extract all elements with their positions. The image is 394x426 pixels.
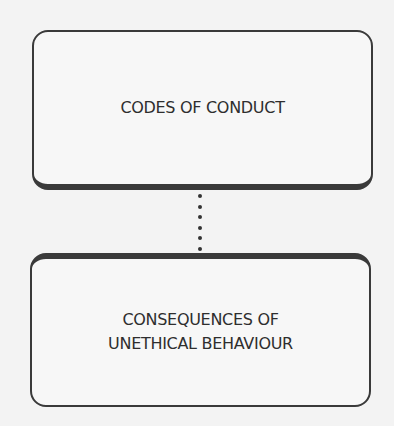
connector-dot (198, 247, 202, 251)
connector-dot (198, 215, 202, 219)
consequences-box: CONSEQUENCES OF UNETHICAL BEHAVIOUR (30, 253, 371, 407)
dotted-connector (198, 194, 202, 251)
connector-dot (198, 226, 202, 230)
consequences-label-line-1: CONSEQUENCES OF (108, 308, 293, 332)
connector-dot (198, 205, 202, 209)
codes-of-conduct-label: CODES OF CONDUCT (120, 96, 284, 120)
consequences-label-line-2: UNETHICAL BEHAVIOUR (108, 332, 293, 356)
connector-dot (198, 194, 202, 198)
consequences-label: CONSEQUENCES OF UNETHICAL BEHAVIOUR (108, 308, 293, 356)
connector-dot (198, 236, 202, 240)
codes-of-conduct-box: CODES OF CONDUCT (32, 30, 373, 190)
